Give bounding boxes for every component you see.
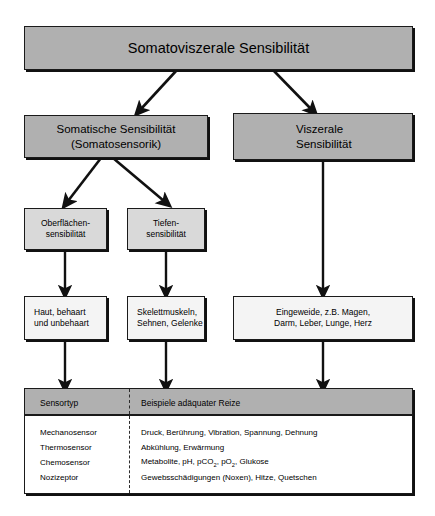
node-viscera-organs: Eingeweide, z.B. Magen, Darm, Leber, Lun… — [233, 296, 413, 340]
table-header-row: Sensortyp Beispiele adäquater Reize — [25, 389, 412, 416]
arrow-root-to-visceral — [274, 71, 311, 109]
somatovisceral-sensibility-diagram: Somatoviszerale Sensibilität Somatische … — [0, 0, 435, 516]
cell-examples: Druck, Berührung, Vibration, Spannung, D… — [129, 428, 412, 437]
node-somatic-sensibility: Somatische Sensibilität (Somatosensorik) — [24, 115, 208, 158]
arrow-somatic-to-deep — [113, 158, 164, 201]
cell-sensor-type: Chemosensor — [25, 458, 129, 467]
cell-sensor-type: Thermosensor — [25, 443, 129, 452]
cell-examples: Gewebsschädigungen (Noxen), Hitze, Quets… — [129, 473, 412, 482]
cell-sensor-type: Mechanosensor — [25, 428, 129, 437]
cell-sensor-type: Nozizeptor — [25, 473, 129, 482]
node-musculoskeletal: Skelettmuskeln, Sehnen, Gelenke — [127, 296, 205, 340]
node-visceral-sensibility: Viszerale Sensibilität — [233, 113, 413, 160]
table-body: Mechanosensor Druck, Berührung, Vibratio… — [25, 416, 412, 493]
table-row: Nozizeptor Gewebsschädigungen (Noxen), H… — [25, 470, 412, 485]
arrow-root-to-somatic — [141, 71, 176, 109]
node-deep-sensibility: Tiefen- sensibilität — [127, 208, 205, 250]
cell-examples: Abkühlung, Erwärmung — [129, 443, 412, 452]
column-divider-body — [129, 416, 130, 493]
table-row: Thermosensor Abkühlung, Erwärmung — [25, 440, 412, 455]
column-divider — [129, 389, 130, 414]
cell-examples: Metabolite, pH, pCO2, pO2, Glukose — [129, 457, 412, 468]
sensor-table: Sensortyp Beispiele adäquater Reize Mech… — [24, 388, 413, 494]
node-skin: Haut, behaart und unbehaart — [24, 296, 107, 340]
table-row: Mechanosensor Druck, Berührung, Vibratio… — [25, 425, 412, 440]
header-sensor-type: Sensortyp — [40, 389, 78, 416]
node-surface-sensibility: Oberflächen- sensibilität — [24, 208, 107, 250]
arrow-somatic-to-surface — [68, 158, 101, 201]
header-examples: Beispiele adäquater Reize — [141, 389, 240, 416]
table-row: Chemosensor Metabolite, pH, pCO2, pO2, G… — [25, 455, 412, 470]
node-root: Somatoviszerale Sensibilität — [24, 26, 413, 70]
